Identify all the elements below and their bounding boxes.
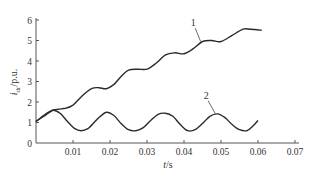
series-1-leader [195,28,200,41]
series-2-label: 2 [204,90,209,101]
y-tick-label: 1 [27,118,32,128]
y-tick-label: 4 [27,57,32,67]
y-axis-label: idr/p.u. [8,69,22,95]
y-tick-label: 5 [27,36,32,46]
y-tick-label: 6 [27,16,32,26]
x-tick-label: 0.07 [287,147,304,157]
y-tick-label: 2 [27,98,32,108]
y-ticks: 0123456 [27,16,39,149]
series-2-line [36,110,258,131]
series-1-label: 1 [191,17,196,28]
x-tick-label: 0.01 [65,147,82,157]
x-tick-label: 0.05 [213,147,230,157]
x-axis-label: t/s [163,159,173,170]
series-1-line [36,29,262,122]
x-axis: 0.010.020.030.040.050.060.07 [36,140,304,157]
y-axis: 0123456 [27,16,39,149]
x-tick-label: 0.03 [139,147,156,157]
x-tick-label: 0.06 [250,147,267,157]
x-tick-label: 0.02 [102,147,119,157]
y-tick-label: 0 [27,139,32,149]
series-2-leader [208,101,215,114]
series-layer: 12 [36,17,262,131]
line-chart: 0123456 0.010.020.030.040.050.060.07 t/s… [0,0,319,176]
x-tick-label: 0.04 [176,147,193,157]
y-tick-label: 3 [27,77,32,87]
